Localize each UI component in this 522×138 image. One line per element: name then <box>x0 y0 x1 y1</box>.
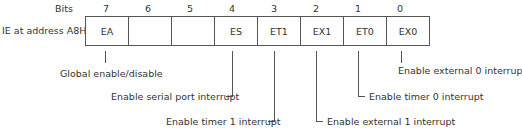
connector-et0-tick <box>358 96 365 97</box>
bit-cell-et1: ET1 <box>258 17 301 45</box>
register-label: IE at address A8H <box>2 26 86 36</box>
desc-et1: Enable timer 1 interrupt <box>166 117 280 127</box>
bit-number: 6 <box>127 3 169 14</box>
bit-number: 5 <box>169 3 211 14</box>
desc-ex0: Enable external 0 interrup <box>398 66 522 76</box>
bit-number: 7 <box>85 3 127 14</box>
connector-et1 <box>274 51 275 122</box>
desc-ea: Global enable/disable <box>60 69 163 79</box>
bit-cell-es: ES <box>215 17 258 45</box>
bit-number: 4 <box>211 3 253 14</box>
connector-et0 <box>358 51 359 97</box>
connector-ex0 <box>401 51 402 63</box>
bit-number: 0 <box>379 3 421 14</box>
bit-number: 1 <box>337 3 379 14</box>
desc-es: Enable serial port interrupt <box>111 92 239 102</box>
connector-ex1 <box>316 51 317 122</box>
bit-cell-ex0: EX0 <box>387 17 429 45</box>
ie-register: EA ES ET1 EX1 ET0 EX0 <box>85 16 430 46</box>
desc-et0: Enable timer 0 interrupt <box>369 92 483 102</box>
bit-cell-ex1: EX1 <box>301 17 344 45</box>
bit-cell-et0: ET0 <box>344 17 387 45</box>
bit-cell-6 <box>129 17 172 45</box>
connector-ex1-tick <box>316 121 323 122</box>
connector-ea <box>105 51 106 63</box>
bit-number: 3 <box>253 3 295 14</box>
bits-label: Bits <box>55 4 73 14</box>
bit-number: 2 <box>295 3 337 14</box>
bit-cell-ea: EA <box>86 17 129 45</box>
bit-cell-5 <box>172 17 215 45</box>
desc-ex1: Enable external 1 interrupt <box>327 117 455 127</box>
